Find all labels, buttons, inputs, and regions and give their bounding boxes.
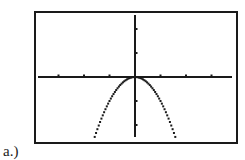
curve-point [106,105,108,107]
curve-point [103,111,105,113]
x-tick [58,75,60,78]
curve-point [162,105,164,107]
y-tick [135,28,138,30]
graphing-calculator-plot [0,0,245,160]
curve-point [165,111,167,113]
curve-point [99,121,101,123]
x-tick [160,75,162,78]
curve-point [110,98,112,100]
curve-point [164,108,166,110]
x-tick [109,75,111,78]
curve-point [169,121,171,123]
curve-point [113,93,115,95]
curve-point [96,128,98,130]
curve-point [151,87,153,89]
y-tick [135,124,138,126]
y-tick [135,100,138,102]
y-tick [135,52,138,54]
curve-point [161,103,163,105]
curve-point [95,132,97,134]
x-tick [211,75,213,78]
figure-label: a.) [3,143,18,160]
curve-point [98,125,100,127]
curve-point [111,95,113,97]
curve-point [153,89,155,91]
curve-point [157,95,159,97]
curve-point [174,136,176,138]
curve-point [160,100,162,102]
curve-point [168,118,170,120]
curve-point [108,100,110,102]
curve-point [115,89,117,91]
x-tick [185,75,187,78]
curve-point [114,91,116,93]
curve-point [172,128,174,130]
curve-point [154,91,156,93]
curve-point [107,103,109,105]
x-tick [83,75,85,78]
curve-point [158,98,160,100]
curve-point [173,132,175,134]
curve-point [170,125,172,127]
curve-point [104,108,106,110]
curve-point [94,136,96,138]
curve-point [155,93,157,95]
curve-point [100,118,102,120]
curve-point [102,114,104,116]
curve-point [166,114,168,116]
